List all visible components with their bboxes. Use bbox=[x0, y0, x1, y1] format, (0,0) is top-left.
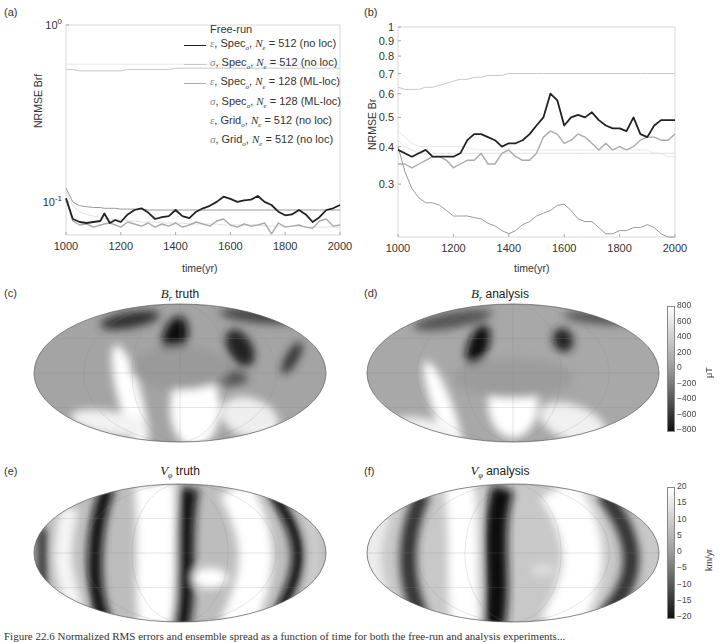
colorbar-tick: 400 bbox=[677, 331, 691, 341]
svg-text:2000: 2000 bbox=[663, 242, 687, 254]
colorbar-tick: −200 bbox=[677, 378, 696, 388]
colorbar-tick: 15 bbox=[677, 497, 686, 507]
colorbar-tick: 0 bbox=[677, 546, 682, 556]
svg-text:0.6: 0.6 bbox=[379, 88, 394, 100]
title-rest: analysis bbox=[483, 464, 530, 478]
svg-text:0.8: 0.8 bbox=[379, 50, 394, 62]
series-line bbox=[398, 74, 675, 90]
chart-b: 10001200140016001800200010.90.80.70.60.5… bbox=[0, 0, 722, 280]
colorbar-tick: −400 bbox=[677, 393, 696, 403]
map-br-analysis bbox=[363, 298, 663, 448]
map-br-truth bbox=[30, 298, 330, 448]
colorbar-tick: 200 bbox=[677, 347, 691, 357]
title-rest: truth bbox=[173, 464, 200, 478]
svg-text:1400: 1400 bbox=[497, 242, 521, 254]
colorbar-tick: −800 bbox=[677, 424, 696, 434]
svg-text:1800: 1800 bbox=[607, 242, 631, 254]
colorbar-tick: 10 bbox=[677, 514, 686, 524]
svg-text:0.3: 0.3 bbox=[379, 178, 394, 190]
colorbar-tick: −15 bbox=[677, 595, 691, 605]
colorbar-tick: −5 bbox=[677, 562, 687, 572]
series-line bbox=[398, 147, 675, 237]
colorbar-br-unit: μT bbox=[704, 367, 714, 378]
map-vphi-analysis bbox=[363, 478, 663, 628]
colorbar-tick: 0 bbox=[677, 362, 682, 372]
colorbar-br: 8006004002000−200−400−600−800 μT bbox=[667, 306, 722, 434]
svg-text:1: 1 bbox=[388, 21, 394, 33]
svg-text:1600: 1600 bbox=[552, 242, 576, 254]
svg-text:0.9: 0.9 bbox=[379, 35, 394, 47]
svg-text:1200: 1200 bbox=[441, 242, 465, 254]
svg-text:0.4: 0.4 bbox=[379, 141, 394, 153]
colorbar-tick: 800 bbox=[677, 300, 691, 310]
colorbar-tick: −20 bbox=[677, 611, 691, 621]
title-var: V bbox=[160, 463, 168, 478]
colorbar-tick: −600 bbox=[677, 409, 696, 419]
panel-label-f: (f) bbox=[364, 465, 374, 477]
panel-label-e: (e) bbox=[4, 465, 17, 477]
colorbar-br-gradient bbox=[667, 306, 675, 432]
svg-text:0.7: 0.7 bbox=[379, 68, 394, 80]
chart-b-plot: 10001200140016001800200010.90.80.70.60.5… bbox=[0, 0, 722, 280]
panel-label-c: (c) bbox=[4, 287, 17, 299]
colorbar-tick: 20 bbox=[677, 481, 686, 491]
colorbar-tick: 600 bbox=[677, 316, 691, 326]
colorbar-tick: 5 bbox=[677, 530, 682, 540]
colorbar-vphi-unit: km/yr bbox=[704, 549, 714, 571]
colorbar-vphi: 20151050−5−10−15−20 km/yr bbox=[667, 487, 722, 622]
svg-text:1000: 1000 bbox=[386, 242, 410, 254]
chart-b-xlabel: time(yr) bbox=[514, 262, 550, 274]
colorbar-vphi-gradient bbox=[667, 487, 675, 619]
figure-caption: Figure 22.6 Normalized RMS errors and en… bbox=[4, 630, 565, 642]
colorbar-tick: −10 bbox=[677, 579, 691, 589]
svg-text:0.5: 0.5 bbox=[379, 111, 394, 123]
chart-b-ylabel: NRMSE Br bbox=[366, 99, 378, 150]
map-vphi-truth bbox=[30, 478, 330, 628]
